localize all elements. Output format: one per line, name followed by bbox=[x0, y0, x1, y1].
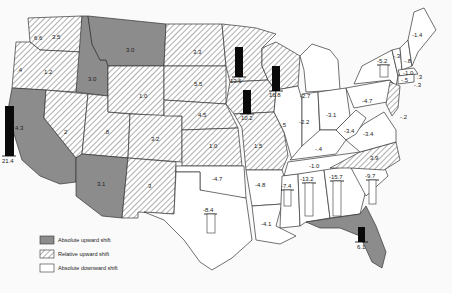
label-ny: -5.2 bbox=[377, 58, 388, 64]
legend-label-absolute-up: Absolute upward shift bbox=[58, 237, 111, 243]
state-mi bbox=[300, 44, 340, 92]
label-ma-small: .3 bbox=[417, 74, 423, 80]
label-fl: 6.1 bbox=[357, 244, 366, 250]
label-ky: -.4 bbox=[315, 146, 323, 152]
label-id: 3.0 bbox=[88, 76, 97, 82]
state-nd bbox=[164, 24, 226, 66]
state-mt bbox=[88, 16, 166, 66]
label-ca-coast: 4.3 bbox=[15, 125, 24, 131]
bar-fl bbox=[358, 227, 365, 242]
label-ne: 4.5 bbox=[198, 112, 207, 118]
us-map: 6.6 3.5 1.2 .4 4.3 21.4 3.0 3.0 2 .8 3.1… bbox=[0, 0, 452, 293]
label-al: -13.2 bbox=[300, 176, 314, 182]
bar-mn bbox=[235, 47, 243, 77]
bar-ca bbox=[5, 106, 14, 156]
label-nh: -.8 bbox=[404, 58, 412, 64]
label-la: -4.1 bbox=[261, 221, 272, 227]
legend-swatch-absolute-down bbox=[40, 264, 54, 272]
bar-wi bbox=[272, 66, 280, 91]
label-de: -.2 bbox=[400, 114, 408, 120]
label-ri: -.3 bbox=[414, 82, 422, 88]
label-ct: -.5 bbox=[401, 77, 409, 83]
label-tx: -8.4 bbox=[203, 207, 214, 213]
bar-ms bbox=[284, 190, 291, 206]
bar-tx bbox=[207, 214, 215, 233]
label-ms: -7.4 bbox=[281, 183, 292, 189]
label-tn: -1.0 bbox=[309, 163, 320, 169]
state-ar bbox=[246, 170, 284, 206]
label-or: 1.2 bbox=[44, 69, 53, 75]
label-ut: .8 bbox=[104, 129, 110, 135]
label-mi: -2.7 bbox=[300, 93, 311, 99]
label-mn: 13.6 bbox=[230, 78, 242, 84]
bar-ga bbox=[333, 181, 341, 216]
label-ks: 1.0 bbox=[209, 143, 218, 149]
label-mo: 1.5 bbox=[254, 143, 263, 149]
label-me: -1.4 bbox=[412, 32, 423, 38]
bar-ia bbox=[243, 90, 251, 114]
legend-label-absolute-down: Absolute downward shift bbox=[58, 265, 118, 271]
label-wv: -3.4 bbox=[344, 128, 355, 134]
label-ga: -15.7 bbox=[329, 174, 343, 180]
legend: Absolute upward shift Relative upward sh… bbox=[40, 236, 118, 272]
label-il: -.5 bbox=[279, 122, 287, 128]
label-az: 3.1 bbox=[97, 181, 106, 187]
label-wy: 1.0 bbox=[139, 93, 148, 99]
label-nd: 3.3 bbox=[193, 49, 202, 55]
label-ia: 10.2 bbox=[241, 115, 253, 121]
label-oh: -3.1 bbox=[326, 112, 337, 118]
bar-ny bbox=[380, 65, 388, 77]
label-sc: -9.7 bbox=[365, 173, 376, 179]
label-sd: 5.5 bbox=[194, 81, 203, 87]
label-wi: 16.8 bbox=[269, 92, 281, 98]
label-ca: 21.4 bbox=[2, 158, 14, 164]
label-mt: 3.0 bbox=[126, 47, 135, 53]
label-wa-small: 6.6 bbox=[34, 35, 43, 41]
label-in: -2.2 bbox=[299, 119, 310, 125]
legend-swatch-absolute-up bbox=[40, 236, 54, 244]
label-co: 3.2 bbox=[151, 136, 160, 142]
label-vt: -.3 bbox=[393, 53, 401, 59]
bar-sc bbox=[369, 180, 376, 204]
label-nc: 3.9 bbox=[370, 155, 379, 161]
label-or-coast: .4 bbox=[17, 67, 23, 73]
state-ny bbox=[354, 50, 398, 86]
label-va: -3.4 bbox=[363, 131, 374, 137]
legend-label-relative-up: Relative upward shift bbox=[58, 251, 110, 257]
label-ok: -4.7 bbox=[212, 176, 223, 182]
label-pa: -4.7 bbox=[362, 98, 373, 104]
legend-swatch-relative-up bbox=[40, 250, 54, 258]
label-ar: -4.8 bbox=[255, 182, 266, 188]
label-ma: -1.0 bbox=[403, 70, 414, 76]
label-wa: 3.5 bbox=[52, 34, 61, 40]
bar-al bbox=[305, 183, 313, 216]
state-wy bbox=[108, 66, 164, 116]
